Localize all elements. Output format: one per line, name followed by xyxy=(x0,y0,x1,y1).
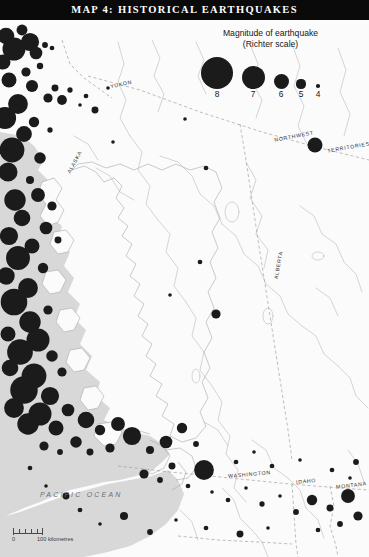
map-figure: MAP 4: HISTORICAL EARTHQUAKES xyxy=(0,0,369,557)
legend-heading-line2: (Richter scale) xyxy=(183,39,358,50)
legend-label-7: 7 xyxy=(246,89,260,99)
legend: Magnitude of earthquake (Richter scale) … xyxy=(183,28,358,108)
legend-label-8: 8 xyxy=(210,89,224,99)
legend-circle-4 xyxy=(316,84,320,88)
scale-labels: 0 100 kilometres xyxy=(13,536,123,546)
legend-symbols: 87654 xyxy=(183,53,358,97)
legend-label-6: 6 xyxy=(274,89,288,99)
legend-circle-5 xyxy=(296,79,305,88)
scale-cap-left xyxy=(13,528,14,535)
scale-cap-right xyxy=(42,528,43,535)
scale-tick-4 xyxy=(37,529,38,534)
legend-heading-line1: Magnitude of earthquake xyxy=(183,28,358,39)
legend-circle-6 xyxy=(274,74,289,89)
scale-tick-2 xyxy=(25,529,26,534)
legend-circle-8 xyxy=(201,57,233,89)
map-title: MAP 4: HISTORICAL EARTHQUAKES xyxy=(0,0,369,20)
scale-label-distance: 100 kilometres xyxy=(37,536,73,542)
scale-label-zero: 0 xyxy=(12,536,15,542)
label-pacific-ocean: PACIFIC OCEAN xyxy=(40,491,123,498)
scale-tick-3 xyxy=(31,529,32,534)
scale-tick-1 xyxy=(19,529,20,534)
legend-label-4: 4 xyxy=(311,89,325,99)
legend-circle-7 xyxy=(242,66,265,89)
title-banner: MAP 4: HISTORICAL EARTHQUAKES xyxy=(0,0,369,20)
scale-rule xyxy=(13,533,43,534)
scale-bar-graphic xyxy=(13,528,43,535)
legend-label-5: 5 xyxy=(294,89,308,99)
scale-bar: 0 100 kilometres xyxy=(13,528,123,546)
